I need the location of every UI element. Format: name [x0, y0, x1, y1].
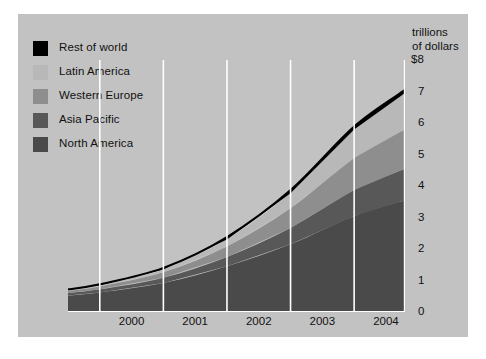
- y-tick-label: 7: [418, 86, 424, 98]
- legend-swatch-icon: [33, 113, 48, 128]
- y-tick-label: 6: [418, 117, 424, 129]
- x-tick-label: 2000: [107, 316, 157, 328]
- x-tick-label: 2003: [297, 316, 347, 328]
- x-tick-label: 2004: [361, 316, 411, 328]
- y-tick-label: 4: [418, 180, 424, 192]
- legend-item-label: Rest of world: [59, 42, 127, 54]
- legend-swatch-icon: [33, 137, 48, 152]
- y-tick-label: 3: [418, 212, 424, 224]
- y-tick-label: 2: [418, 243, 424, 255]
- legend-swatch-icon: [33, 89, 48, 104]
- y-axis-caption-line2: of dollars: [412, 40, 459, 54]
- y-tick-label: $8: [411, 54, 424, 66]
- y-tick-label: 5: [418, 149, 424, 161]
- y-axis-caption-line1: trillions: [412, 26, 459, 40]
- stacked-area-svg: [68, 60, 405, 312]
- legend-swatch-icon: [33, 65, 48, 80]
- legend-item-rest-of-world: Rest of world: [33, 36, 143, 60]
- x-tick-label: 2002: [234, 316, 284, 328]
- chart-figure: Rest of world Latin America Western Euro…: [0, 0, 486, 359]
- y-axis-caption: trillions of dollars: [412, 26, 459, 53]
- y-tick-label: 0: [418, 306, 424, 318]
- legend-swatch-icon: [33, 41, 48, 56]
- plot-area: [68, 60, 405, 312]
- x-tick-label: 2001: [170, 316, 220, 328]
- y-tick-label: 1: [418, 275, 424, 287]
